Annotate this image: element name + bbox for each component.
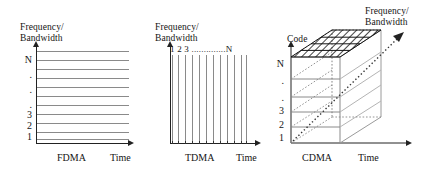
tdma-x-tick: [206, 141, 207, 144]
tdma-slot-line: [206, 55, 207, 143]
fdma-y-tick-1: 1: [14, 132, 32, 142]
tdma-x-tick: [185, 141, 186, 144]
tdma-x-tick: [234, 141, 235, 144]
fdma-y-tick-n: N: [14, 55, 32, 65]
fdma-band-line: [37, 51, 129, 52]
tdma-slot-line: [185, 55, 186, 143]
fdma-band-line: [37, 78, 129, 79]
fdma-scheme-label: FDMA: [57, 152, 86, 163]
tdma-slot-line: [178, 55, 179, 143]
tdma-y-axis-label: Frequency/ Bandwidth: [155, 22, 225, 44]
tdma-slot-line: [227, 55, 228, 143]
tdma-scheme-label: TDMA: [185, 152, 214, 163]
fdma-panel: Frequency/ Bandwidth N . . . 3 2 1 FDMA …: [0, 0, 140, 178]
fdma-x-axis-arrow: [128, 140, 134, 146]
tdma-slot-line: [220, 55, 221, 143]
tdma-slot-sequence-label: 1 2 3 ..............N: [170, 45, 232, 54]
fdma-band-line: [37, 105, 129, 106]
fdma-band-line: [37, 87, 129, 88]
fdma-band-line: [37, 96, 129, 97]
fdma-band-line: [37, 114, 129, 115]
fdma-x-axis: [36, 143, 128, 144]
cdma-x-axis-label: Time: [358, 152, 379, 163]
fdma-band-line: [37, 60, 129, 61]
tdma-slot-line: [192, 55, 193, 143]
tdma-slot-line: [199, 55, 200, 143]
fdma-y-axis-label: Frequency/ Bandwidth: [20, 22, 90, 44]
tdma-x-tick: [227, 141, 228, 144]
tdma-x-tick: [241, 141, 242, 144]
cdma-panel: Code Frequency/ Bandwidth N . . 3 2 1: [280, 0, 421, 178]
fdma-band-line: [37, 139, 129, 140]
tdma-x-tick: [246, 141, 247, 144]
fdma-y-tick-dot-2: .: [14, 85, 32, 95]
tdma-slot-line: [172, 55, 173, 143]
tdma-x-tick: [178, 141, 179, 144]
tdma-x-axis-label: Time: [236, 152, 257, 163]
fdma-y-tick-2: 2: [14, 121, 32, 131]
fdma-band-line: [37, 69, 129, 70]
tdma-slot-line: [213, 55, 214, 143]
tdma-panel: Frequency/ Bandwidth 1 2 3 .............…: [140, 0, 270, 178]
tdma-x-tick: [213, 141, 214, 144]
fdma-y-tick-3: 3: [14, 110, 32, 120]
tdma-x-axis-arrow: [255, 140, 261, 146]
fdma-band-line: [37, 123, 129, 124]
fdma-y-tick-dot-1: .: [14, 70, 32, 80]
multiple-access-schemes-figure: Frequency/ Bandwidth N . . . 3 2 1 FDMA …: [0, 0, 421, 178]
tdma-slot-line: [234, 55, 235, 143]
tdma-x-tick: [192, 141, 193, 144]
cdma-scheme-label: CDMA: [302, 152, 332, 163]
tdma-x-tick: [220, 141, 221, 144]
tdma-slot-line: [246, 55, 247, 143]
tdma-slot-line: [241, 55, 242, 143]
tdma-x-tick: [172, 141, 173, 144]
tdma-x-tick: [199, 141, 200, 144]
fdma-x-axis-label: Time: [110, 152, 131, 163]
tdma-y-axis: [170, 46, 171, 143]
fdma-band-line: [37, 132, 129, 133]
